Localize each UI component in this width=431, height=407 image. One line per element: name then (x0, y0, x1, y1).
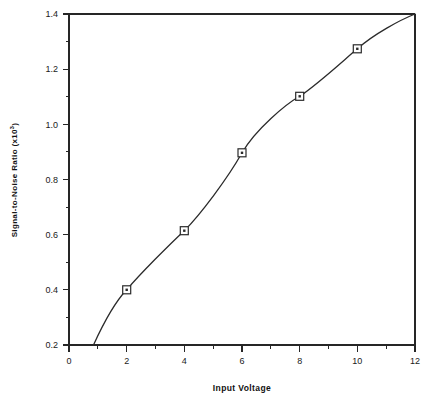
x-axis-major-ticks (69, 345, 415, 352)
y-tick-label: 1.2 (45, 64, 58, 74)
chart-figure: 0.2 0.4 0.6 0.8 1.0 1.2 1.4 0 2 4 6 8 10… (0, 0, 431, 407)
y-tick-label: 1.0 (45, 120, 58, 130)
data-point-4 (296, 92, 304, 100)
x-tick-label: 8 (297, 356, 302, 366)
x-tick-label: 0 (66, 356, 71, 366)
data-point-5 (353, 45, 361, 53)
data-point-3 (238, 149, 246, 157)
x-tick-label: 4 (182, 356, 187, 366)
y-tick-label: 0.6 (45, 230, 58, 240)
y-tick-label: 0.8 (45, 175, 58, 185)
y-tick-label: 1.4 (45, 9, 58, 19)
data-point-2 (180, 227, 188, 235)
x-tick-label: 6 (239, 356, 244, 366)
x-tick-label: 2 (124, 356, 129, 366)
y-axis-title-prefix: Signal-to-Noise Ratio (x10 (10, 129, 19, 237)
y-axis-major-ticks (63, 14, 70, 345)
x-tick-label: 12 (410, 356, 420, 366)
x-axis-title: Input Voltage (213, 383, 271, 393)
chart-plot-area: 0.2 0.4 0.6 0.8 1.0 1.2 1.4 0 2 4 6 8 10… (0, 0, 431, 407)
y-axis-title: Signal-to-Noise Ratio (x103) (9, 123, 19, 238)
y-tick-label: 0.4 (45, 285, 58, 295)
x-tick-label: 10 (352, 356, 362, 366)
data-point-1 (123, 286, 131, 294)
plot-frame (69, 14, 415, 345)
y-axis-tick-labels: 0.2 0.4 0.6 0.8 1.0 1.2 1.4 (45, 9, 58, 350)
y-tick-label: 0.2 (45, 340, 58, 350)
fit-curve (94, 14, 416, 345)
y-axis-title-suffix: ) (10, 123, 19, 126)
x-axis-tick-labels: 0 2 4 6 8 10 12 (66, 356, 420, 366)
